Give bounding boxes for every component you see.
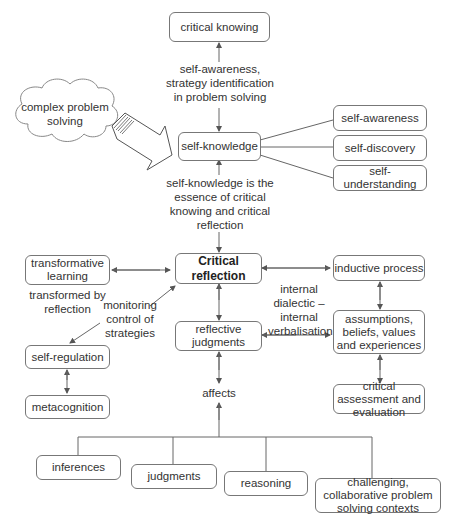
node-label: critical knowing <box>181 21 259 34</box>
node-critical-reflection: Critical reflection <box>175 253 262 284</box>
edge-label-monitoring-control: monitoring control of strategies <box>100 298 160 340</box>
node-transformative-learning: transformative learning <box>25 255 110 285</box>
edge-label-internal-dialectic: internal dialectic – internal verbalisat… <box>268 282 330 338</box>
node-self-discovery: self-discovery <box>333 135 427 161</box>
edge-label-affects: affects <box>194 386 244 400</box>
node-critical-assessment: critical assessment and evaluation <box>333 384 425 414</box>
node-self-regulation: self-regulation <box>25 345 110 369</box>
node-label: judgments <box>147 470 200 483</box>
node-label: challenging, collaborative problem solvi… <box>316 476 440 515</box>
node-metacognition: metacognition <box>25 395 110 419</box>
node-label: self-discovery <box>345 142 415 155</box>
node-label: transformative learning <box>26 257 109 283</box>
edge-label-transformed-by-reflection: transformed by reflection <box>25 288 110 316</box>
node-label: reasoning <box>241 477 292 490</box>
node-label: Critical reflection <box>176 254 261 284</box>
node-label: assumptions, beliefs, values and experie… <box>334 313 424 352</box>
node-inferences: inferences <box>36 455 121 480</box>
node-assumptions: assumptions, beliefs, values and experie… <box>333 310 425 354</box>
node-label: inductive process <box>335 262 424 275</box>
node-label: metacognition <box>32 401 104 414</box>
node-reflective-judgments: reflective judgments <box>175 321 262 351</box>
node-self-knowledge: self-knowledge <box>178 132 261 161</box>
node-label: self-understanding <box>334 165 426 191</box>
node-challenging-contexts: challenging, collaborative problem solvi… <box>315 478 441 513</box>
node-inductive-process: inductive process <box>333 255 425 281</box>
node-reasoning: reasoning <box>224 471 308 496</box>
node-label: self-awareness <box>341 112 418 125</box>
node-complex-problem-solving: complex problem solving <box>20 100 110 128</box>
node-label: self-knowledge <box>181 140 258 153</box>
node-label: self-regulation <box>31 351 103 364</box>
node-critical-knowing: critical knowing <box>169 12 270 42</box>
node-label: reflective judgments <box>176 323 261 349</box>
edge-label-strategy-identification: self-awareness, strategy identification … <box>160 62 280 104</box>
node-judgments: judgments <box>131 464 217 489</box>
node-label: inferences <box>52 461 105 474</box>
node-self-awareness: self-awareness <box>333 105 427 131</box>
edge-label-essence: self-knowledge is the essence of critica… <box>166 176 274 232</box>
node-label: critical assessment and evaluation <box>334 380 424 419</box>
node-self-understanding: self-understanding <box>333 165 427 191</box>
